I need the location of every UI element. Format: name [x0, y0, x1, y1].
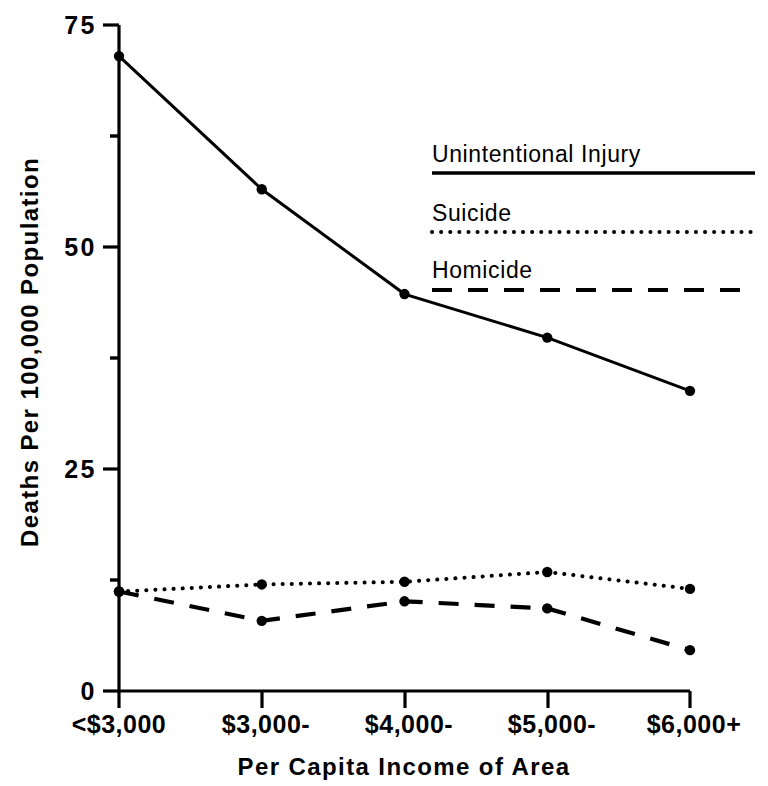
data-point: [257, 579, 267, 589]
data-point: [257, 184, 267, 194]
series-markers-homicide: [114, 586, 695, 655]
data-point: [399, 596, 409, 606]
y-tick-label-25: 25: [64, 455, 97, 483]
data-point: [542, 603, 552, 613]
legend-item-suicide: Suicide: [432, 200, 755, 232]
legend: Unintentional Injury Suicide Homicide: [432, 141, 755, 290]
data-point: [257, 616, 267, 626]
data-point: [542, 567, 552, 577]
x-tick-label-4: $5,000-: [508, 710, 596, 738]
y-tick-label-0: 0: [81, 677, 97, 705]
x-tick-label-2: $3,000-: [222, 710, 310, 738]
line-chart-canvas: 75 50 25 0 <$3,000 $3,000- $4,000- $5,00…: [0, 0, 768, 786]
x-tick-label-1: <$3,000: [72, 710, 167, 738]
series-homicide: [114, 586, 695, 655]
x-tick-label-5: $6,000+: [647, 710, 742, 738]
x-axis-title: Per Capita Income of Area: [238, 753, 571, 780]
chart-figure: 75 50 25 0 <$3,000 $3,000- $4,000- $5,00…: [0, 0, 768, 786]
legend-label-unintentional-injury: Unintentional Injury: [432, 141, 641, 167]
data-point: [399, 577, 409, 587]
data-point: [114, 586, 124, 596]
legend-item-unintentional-injury: Unintentional Injury: [432, 141, 755, 173]
data-point: [114, 51, 124, 61]
data-point: [399, 289, 409, 299]
series-markers-unintentional-injury: [114, 51, 695, 396]
y-tick-label-50: 50: [64, 233, 97, 261]
x-tick-labels-group: <$3,000 $3,000- $4,000- $5,000- $6,000+: [72, 710, 742, 738]
y-tick-labels-group: 75 50 25 0: [64, 11, 97, 705]
legend-label-suicide: Suicide: [432, 200, 512, 226]
data-point: [685, 645, 695, 655]
legend-label-homicide: Homicide: [432, 257, 533, 283]
data-point: [542, 332, 552, 342]
series-markers-suicide: [114, 567, 695, 597]
series-line-unintentional-injury: [119, 56, 690, 391]
legend-item-homicide: Homicide: [432, 257, 755, 290]
series-unintentional-injury: [114, 51, 695, 396]
data-point: [685, 386, 695, 396]
series-suicide: [114, 567, 695, 597]
x-tick-label-3: $4,000-: [365, 710, 453, 738]
y-tick-label-75: 75: [64, 11, 97, 39]
y-axis-title: Deaths Per 100,000 Population: [16, 157, 43, 547]
data-point: [685, 584, 695, 594]
x-ticks-group: [119, 691, 690, 708]
